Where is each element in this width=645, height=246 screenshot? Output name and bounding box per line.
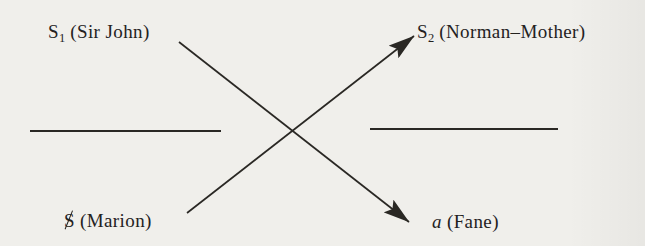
- node-s2-subscript: 2: [428, 31, 434, 45]
- node-a-annotation: (Fane): [447, 211, 499, 232]
- node-barred-s-label: S(Marion): [64, 210, 152, 232]
- node-s1-annotation: (Sir John): [70, 21, 149, 42]
- node-s1-label: S1(Sir John): [48, 21, 150, 43]
- node-s2-label: S2(Norman–Mother): [417, 21, 586, 43]
- scanned-diagram-page: S1(Sir John) S2(Norman–Mother) S(Marion)…: [0, 0, 645, 246]
- node-barred-s-symbol: S: [64, 210, 75, 232]
- node-s2-symbol: S: [417, 21, 428, 42]
- node-s2-annotation: (Norman–Mother): [439, 21, 585, 42]
- node-a-label: a(Fane): [432, 211, 499, 233]
- node-a-symbol: a: [432, 211, 442, 232]
- node-s1-subscript: 1: [59, 31, 65, 45]
- edge-marion-to-s2: [187, 36, 414, 213]
- node-s1-symbol: S: [48, 21, 59, 42]
- node-barred-s-annotation: (Marion): [80, 210, 152, 231]
